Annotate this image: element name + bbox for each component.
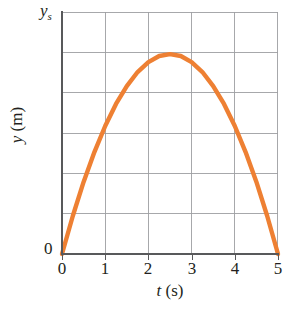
y-axis-title: y (m) (7, 70, 27, 180)
y-axis-max-label: ys (40, 2, 52, 25)
y-axis-max-label-variable: y (40, 1, 48, 20)
data-curve-y-of-t (62, 12, 278, 254)
y-axis-title-variable: y (7, 136, 26, 144)
x-tick-label-5: 5 (266, 259, 290, 279)
x-tick-label-1: 1 (93, 259, 117, 279)
x-axis-line (61, 253, 279, 255)
y-axis-title-unit: (m) (7, 107, 26, 136)
y-axis-origin-label: 0 (44, 240, 53, 258)
x-tick-label-3: 3 (180, 259, 204, 279)
x-tick-label-4: 4 (223, 259, 247, 279)
plot-area (62, 12, 278, 254)
x-tick-label-2: 2 (136, 259, 160, 279)
x-axis-title: t (s) (118, 281, 222, 301)
y-axis-max-label-subscript: s (48, 10, 52, 22)
x-axis-title-unit: (s) (161, 281, 183, 300)
x-tick-label-0: 0 (50, 259, 74, 279)
y-axis-line (61, 11, 63, 255)
figure-graph-y-vs-t: 0 1 2 3 4 5 0 ys t (s) y (m) (0, 0, 296, 319)
